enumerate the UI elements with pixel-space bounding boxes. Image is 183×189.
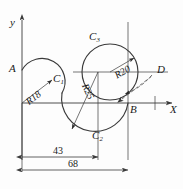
point-label-b: B	[130, 104, 137, 115]
leader-r25	[72, 72, 98, 129]
center-label-c3-text: C	[89, 30, 96, 42]
x-axis-label: X	[170, 104, 177, 115]
construction-lines	[22, 22, 168, 172]
y-axis-label: y	[10, 17, 15, 28]
center-label-c1: C1	[53, 73, 64, 84]
center-label-c2: C2	[92, 130, 103, 141]
dimension-label-68: 68	[68, 159, 78, 169]
center-label-c1-text: C	[53, 72, 60, 84]
point-label-a: A	[9, 63, 16, 74]
center-label-c3: C3	[89, 31, 100, 42]
center-label-c3-subscript: 3	[97, 36, 100, 43]
dimension-label-43: 43	[53, 146, 63, 156]
point-label-d: D	[157, 64, 165, 75]
dashed-leader-to-b	[125, 75, 152, 94]
center-label-c2-text: C	[92, 129, 99, 141]
center-label-c1-subscript: 1	[61, 78, 64, 85]
drawing-canvas: y X A B D C1 C2 C3 R18 R25 R20 43 68	[0, 0, 183, 189]
center-label-c2-subscript: 2	[100, 135, 103, 142]
